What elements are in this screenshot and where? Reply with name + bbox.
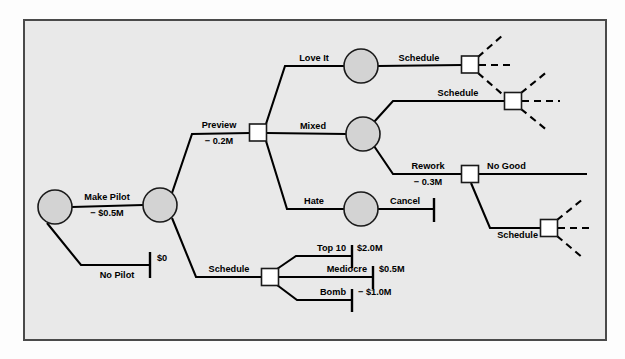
label-schedule-bottom: Schedule: [209, 264, 250, 274]
label-rework: Rework: [411, 161, 445, 171]
hate-chance-node[interactable]: [344, 192, 378, 226]
label-bomb-value: − $1.0M: [358, 287, 392, 297]
rework-decision-node[interactable]: [462, 166, 479, 183]
decision-tree-svg: Make Pilot − $0.5M No Pilot $0 Preview −…: [0, 0, 625, 359]
label-cancel: Cancel: [390, 196, 420, 206]
label-hate: Hate: [304, 196, 324, 206]
label-mixed: Mixed: [300, 121, 326, 131]
bottom-schedule-decision-node[interactable]: [262, 269, 279, 286]
label-schedule-mixed: Schedule: [438, 88, 479, 98]
label-no-good: No Good: [487, 161, 526, 171]
diagram-canvas: Make Pilot − $0.5M No Pilot $0 Preview −…: [0, 0, 625, 359]
pilot-outcome-chance-node[interactable]: [143, 188, 177, 222]
label-make-pilot-cost: − $0.5M: [90, 208, 124, 218]
label-rework-cost: − 0.3M: [414, 177, 443, 187]
edge-mixed: [267, 133, 346, 134]
label-schedule-love: Schedule: [399, 53, 440, 63]
edge-schedule-love: [378, 65, 462, 66]
label-top-10-value: $2.0M: [357, 243, 383, 253]
preview-decision-node[interactable]: [250, 124, 267, 141]
label-mediocre-value: $0.5M: [379, 264, 405, 274]
label-mediocre: Mediocre: [327, 264, 367, 274]
label-preview-cost: − 0.2M: [205, 136, 234, 146]
label-no-pilot: No Pilot: [100, 270, 135, 280]
label-top-10: Top 10: [317, 243, 346, 253]
love-it-chance-node[interactable]: [344, 49, 378, 83]
label-preview: Preview: [202, 120, 238, 130]
label-no-pilot-value: $0: [157, 253, 167, 263]
mixed-schedule-decision-node[interactable]: [505, 93, 522, 110]
label-love-it: Love It: [299, 53, 329, 63]
label-make-pilot: Make Pilot: [84, 192, 129, 202]
mixed-chance-node[interactable]: [346, 117, 380, 151]
rework-schedule-decision-node[interactable]: [541, 220, 558, 237]
diagram-background: [24, 20, 606, 340]
love-schedule-decision-node[interactable]: [462, 56, 479, 73]
root-decision-node[interactable]: [38, 190, 72, 224]
label-bomb: Bomb: [320, 287, 346, 297]
label-schedule-rework: Schedule: [497, 230, 538, 240]
